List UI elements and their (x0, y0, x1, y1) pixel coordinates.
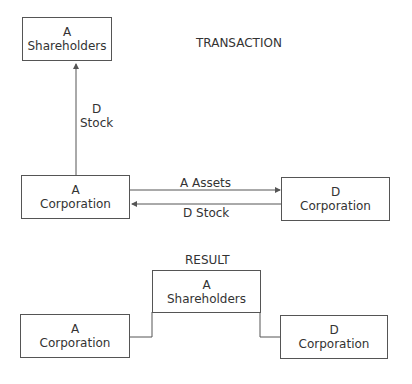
box-line1: A (202, 278, 210, 292)
transaction-d-corporation-box: D Corporation (281, 177, 390, 221)
box-line1: A (63, 25, 71, 39)
transaction-a-shareholders-box: A Shareholders (22, 17, 112, 61)
box-line2: Corporation (40, 197, 111, 211)
transaction-a-corporation-box: A Corporation (21, 175, 130, 219)
arrow-left-label: D Stock (183, 206, 229, 220)
box-line2: Shareholders (27, 39, 106, 53)
arrow-up-label-line1: D (80, 102, 113, 116)
result-a-shareholders-box: A Shareholders (152, 270, 261, 313)
arrow-up-label: D Stock (80, 102, 113, 130)
result-a-corporation-box: A Corporation (20, 314, 130, 358)
box-line1: A (71, 322, 79, 336)
result-d-corporation-box: D Corporation (280, 315, 388, 359)
transaction-title: TRANSACTION (196, 36, 282, 50)
box-line2: Corporation (40, 336, 111, 350)
box-line2: Shareholders (167, 292, 246, 306)
box-line1: A (71, 183, 79, 197)
arrow-right-label: A Assets (180, 176, 231, 190)
box-line2: Corporation (300, 199, 371, 213)
box-line2: Corporation (299, 337, 370, 351)
result-title: RESULT (185, 253, 230, 267)
box-line1: D (331, 185, 340, 199)
arrow-up-label-line2: Stock (80, 116, 113, 130)
box-line1: D (329, 323, 338, 337)
